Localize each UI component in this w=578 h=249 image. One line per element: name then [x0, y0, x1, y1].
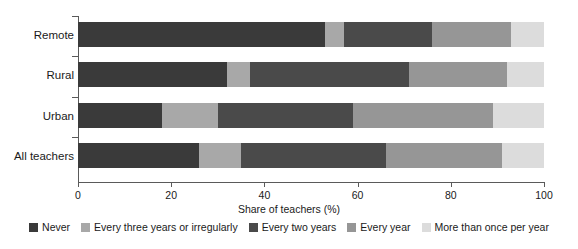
x-axis-tick [78, 182, 79, 187]
bar-segment [227, 62, 250, 87]
bar-segment [78, 143, 199, 168]
legend-item[interactable]: Every year [347, 222, 410, 233]
x-axis-tick-label: 80 [445, 189, 457, 201]
x-axis-tick-label: 60 [352, 189, 364, 201]
bar-segment [507, 62, 544, 87]
legend-item[interactable]: Never [29, 222, 70, 233]
bar-segment [344, 22, 433, 47]
x-axis-tick-label: 0 [75, 189, 81, 201]
x-axis-line [78, 182, 545, 183]
plot-area: RemoteRuralUrbanAll teachers 02040608010… [0, 0, 578, 190]
x-axis-tick [171, 182, 172, 187]
chart-legend: NeverEvery three years or irregularlyEve… [0, 222, 578, 233]
bar-segment [78, 22, 325, 47]
bar-segment [353, 103, 493, 128]
bar-segment [78, 103, 162, 128]
legend-swatch-icon [81, 223, 90, 232]
bar-row [0, 22, 578, 47]
x-axis-tick [358, 182, 359, 187]
legend-label: Every two years [262, 222, 337, 233]
bar-segment [199, 143, 241, 168]
x-axis-tick [264, 182, 265, 187]
x-axis-tick [544, 182, 545, 187]
legend-swatch-icon [249, 223, 258, 232]
y-axis-tick [72, 16, 78, 17]
bar-row [0, 62, 578, 87]
bar-segment [218, 103, 353, 128]
x-axis-tick [451, 182, 452, 187]
legend-label: More than once per year [435, 222, 549, 233]
legend-label: Every year [360, 222, 410, 233]
bar-segment [250, 62, 408, 87]
legend-swatch-icon [29, 223, 38, 232]
bar-segment [241, 143, 385, 168]
bar-segment [432, 22, 511, 47]
legend-label: Never [42, 222, 70, 233]
y-axis-tick [72, 56, 78, 57]
x-axis-tick-label: 20 [165, 189, 177, 201]
y-axis-tick [72, 97, 78, 98]
bar-segment [502, 143, 544, 168]
bar-segment [325, 22, 344, 47]
bar-row [0, 143, 578, 168]
y-axis-tick [72, 137, 78, 138]
legend-item[interactable]: Every three years or irregularly [81, 222, 238, 233]
stacked-bar-chart: RemoteRuralUrbanAll teachers 02040608010… [0, 0, 578, 249]
bar-segment [409, 62, 507, 87]
x-axis-tick-label: 40 [259, 189, 271, 201]
legend-swatch-icon [347, 223, 356, 232]
x-axis-tick-label: 100 [535, 189, 553, 201]
x-axis-title: Share of teachers (%) [0, 203, 578, 215]
bar-segment [511, 22, 544, 47]
legend-swatch-icon [422, 223, 431, 232]
legend-item[interactable]: Every two years [249, 222, 337, 233]
bar-segment [493, 103, 544, 128]
bar-segment [162, 103, 218, 128]
legend-label: Every three years or irregularly [94, 222, 238, 233]
bar-segment [78, 62, 227, 87]
bar-row [0, 103, 578, 128]
legend-item[interactable]: More than once per year [422, 222, 549, 233]
bar-segment [386, 143, 503, 168]
